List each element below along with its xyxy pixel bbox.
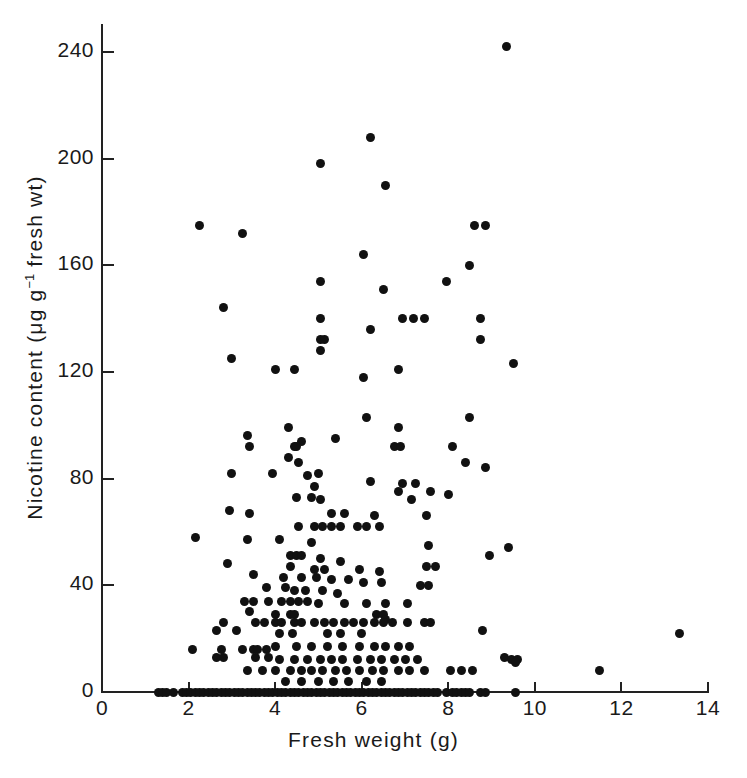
data-point [396,442,405,451]
data-point [212,626,221,635]
data-point [290,618,299,627]
y-axis-line [101,24,103,693]
data-point [271,618,280,627]
data-point [297,437,306,446]
x-tick-mark [620,682,622,693]
data-point [465,261,474,270]
data-point [595,666,604,675]
y-tick-mark [103,158,114,160]
data-point [422,511,431,520]
data-point [271,365,280,374]
data-point [323,629,332,638]
data-point [340,618,349,627]
data-point [413,655,422,664]
data-point [307,642,316,651]
data-point [338,655,347,664]
data-point [294,597,303,606]
data-point [513,655,522,664]
data-point [292,551,301,560]
data-point [359,373,368,382]
data-point [238,229,247,238]
data-point [370,618,379,627]
data-point [318,522,327,531]
data-point [507,655,516,664]
data-point [370,511,379,520]
data-point [329,618,338,627]
data-point [286,610,295,619]
data-point [457,666,466,675]
data-point [446,666,455,675]
x-tick-label: 8 [428,696,468,720]
data-point [271,610,280,619]
data-point [279,573,288,582]
data-point [297,677,306,686]
data-point [502,42,511,51]
data-point [297,551,306,560]
data-point [238,645,247,654]
data-point [219,618,228,627]
data-point [275,535,284,544]
data-point [212,653,221,662]
x-axis-title: Fresh weight (g) [0,728,747,752]
data-point [243,666,252,675]
data-point [245,607,254,616]
data-point [675,629,684,638]
data-point [388,618,397,627]
data-point [292,642,301,651]
data-point [191,533,200,542]
data-point [232,626,241,635]
data-point [316,495,325,504]
data-point [431,562,440,571]
data-point [349,618,358,627]
data-point [448,442,457,451]
data-point [277,618,286,627]
data-point [271,666,280,675]
data-point [362,413,371,422]
data-point [336,557,345,566]
data-point [320,618,329,627]
x-tick-mark [707,682,709,693]
data-point [281,677,290,686]
y-axis-title-exponent: −1 [22,274,37,289]
data-point [372,610,381,619]
data-point [297,618,306,627]
data-point [411,479,420,488]
data-point [303,471,312,480]
data-point [320,565,329,574]
data-point [426,618,435,627]
y-tick-mark [103,51,114,53]
data-point [355,642,364,651]
data-point [316,314,325,323]
data-point [217,645,226,654]
y-axis-title: Nicotine content (μg g−1 fresh wt) [22,18,47,678]
data-point [268,469,277,478]
data-point [476,314,485,323]
data-point [394,487,403,496]
y-axis-title-tail: fresh wt) [23,175,46,273]
data-point [442,277,451,286]
data-point [290,586,299,595]
data-point [398,479,407,488]
data-point [377,655,386,664]
data-point [405,642,414,651]
data-point [511,658,520,667]
data-point [331,666,340,675]
x-tick-mark [274,682,276,693]
data-point [336,522,345,531]
data-point [316,277,325,286]
data-point [251,618,260,627]
data-point [500,653,509,662]
data-point [381,599,390,608]
data-point [426,487,435,496]
data-point [355,565,364,574]
data-point [316,655,325,664]
data-point [251,653,260,662]
data-point [338,642,347,651]
data-point [379,618,388,627]
data-point [292,442,301,451]
data-point [310,565,319,574]
data-point [281,583,290,592]
data-point [359,618,368,627]
data-point [329,677,338,686]
data-point [422,562,431,571]
